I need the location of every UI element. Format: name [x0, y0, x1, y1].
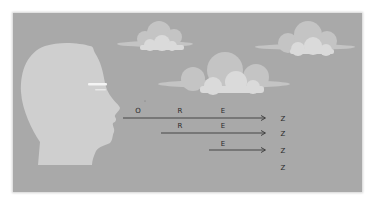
cloud-icon — [255, 21, 355, 56]
cloud-icon — [117, 21, 193, 51]
label-e: E — [221, 122, 225, 130]
arrow-row-2 — [161, 131, 266, 136]
eyebrow-highlight — [88, 83, 107, 86]
label-z: Z — [281, 164, 286, 172]
arrow-row-1 — [123, 116, 266, 121]
arrow-row-3 — [209, 148, 266, 153]
label-z: Z — [281, 147, 286, 155]
cloud-icon — [158, 52, 290, 95]
eye-highlight — [95, 89, 106, 91]
scene-graphic — [0, 0, 376, 208]
label-e: E — [221, 140, 225, 148]
head-silhouette-icon — [21, 43, 120, 165]
label-e: E — [221, 107, 225, 115]
label-r: R — [178, 107, 183, 115]
label-z: Z — [281, 130, 286, 138]
label-r: R — [178, 122, 183, 130]
label-z: Z — [281, 115, 286, 123]
label-o: O — [135, 107, 141, 115]
